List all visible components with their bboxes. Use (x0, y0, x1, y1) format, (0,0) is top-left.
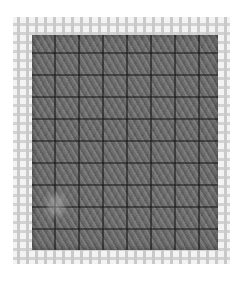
stitched-yarn-area (32, 35, 218, 250)
yarn-light-patch (48, 195, 64, 215)
